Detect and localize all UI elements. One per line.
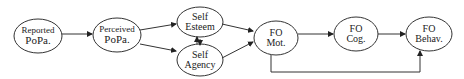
node-label-line: Cog. bbox=[346, 34, 365, 45]
node-reported-label: Reported PoPa. bbox=[14, 21, 62, 51]
node-label-line: Agency bbox=[184, 60, 215, 71]
node-label-line: PoPa. bbox=[104, 34, 129, 46]
node-fo-cog-label: FO Cog. bbox=[334, 20, 378, 48]
node-label-line: Behav. bbox=[415, 34, 442, 45]
diagram-canvas bbox=[0, 0, 464, 79]
node-fo-mot-label: FO Mot. bbox=[254, 24, 298, 52]
node-fo-behav-label: FO Behav. bbox=[406, 20, 452, 48]
node-self-agency-label: Self Agency bbox=[177, 46, 223, 74]
node-label-line: Esteem bbox=[185, 22, 214, 33]
node-label-line: PoPa. bbox=[25, 35, 50, 47]
node-label-line: Mot. bbox=[266, 38, 285, 49]
node-perceived-label: Perceived PoPa. bbox=[93, 20, 141, 50]
node-self-esteem-label: Self Esteem bbox=[177, 8, 223, 36]
